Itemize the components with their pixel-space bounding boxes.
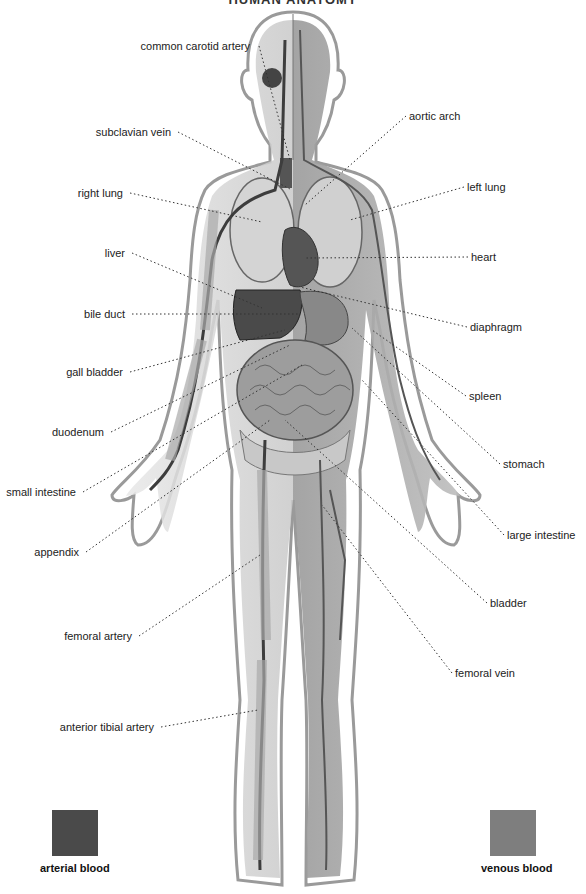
- human-body-illustration: [0, 0, 586, 894]
- label-liver: liver: [105, 247, 125, 260]
- label-heart: heart: [471, 251, 496, 264]
- label-bile-duct: bile duct: [84, 308, 125, 321]
- venous-blood-swatch: [490, 810, 536, 856]
- arterial-blood-label: arterial blood: [40, 862, 110, 874]
- leader-line: [161, 710, 258, 727]
- label-femoral-artery: femoral artery: [64, 630, 132, 643]
- label-anterior-tibial-artery: anterior tibial artery: [60, 721, 154, 734]
- right-body-fill: [293, 20, 460, 878]
- label-bladder: bladder: [490, 597, 527, 610]
- label-left-lung: left lung: [467, 181, 506, 194]
- label-large-intestine: large intestine: [507, 529, 576, 542]
- label-spleen: spleen: [469, 390, 501, 403]
- label-femoral-vein: femoral vein: [455, 667, 515, 680]
- label-duodenum: duodenum: [52, 426, 104, 439]
- label-common-carotid-artery: common carotid artery: [141, 40, 250, 53]
- label-aortic-arch: aortic arch: [409, 110, 460, 123]
- label-subclavian-vein: subclavian vein: [96, 126, 171, 139]
- label-right-lung: right lung: [78, 187, 123, 200]
- leader-line: [362, 380, 504, 535]
- eye-socket: [262, 68, 282, 88]
- venous-blood-label: venous blood: [481, 862, 553, 874]
- arterial-blood-swatch: [52, 810, 98, 856]
- label-appendix: appendix: [34, 546, 79, 559]
- label-gall-bladder: gall bladder: [66, 366, 123, 379]
- label-stomach: stomach: [503, 458, 545, 471]
- label-diaphragm: diaphragm: [470, 321, 522, 334]
- intestines-shape: [237, 340, 353, 440]
- label-small-intestine: small intestine: [6, 486, 76, 499]
